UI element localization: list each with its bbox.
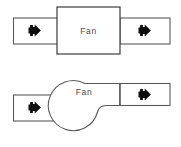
diagram-canvas: Fan Fan — [0, 0, 181, 147]
fan-schematics-svg: Fan Fan — [0, 0, 181, 147]
top-fan-label: Fan — [80, 26, 96, 36]
centrifugal-fan-diagram: Fan — [14, 81, 171, 131]
axial-fan-diagram: Fan — [14, 7, 171, 54]
bottom-fan-label: Fan — [76, 87, 92, 97]
